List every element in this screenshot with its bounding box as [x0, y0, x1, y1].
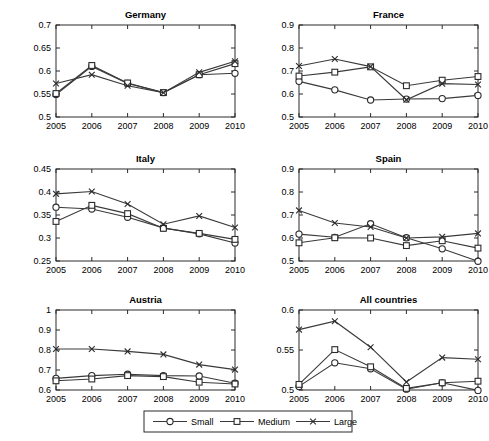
circle-marker [196, 373, 202, 379]
y-axis-tick-label: 0.8 [281, 187, 294, 197]
x-axis-tick-label: 2007 [118, 394, 138, 404]
series-medium [296, 64, 481, 89]
circle-marker [475, 258, 481, 264]
x-axis-tick-label: 2007 [361, 121, 381, 131]
square-marker [89, 63, 95, 69]
panel-title-germany: Germany [125, 9, 167, 20]
x-axis-tick-label: 2005 [289, 394, 309, 404]
series-large [296, 318, 481, 385]
x-axis-tick-label: 2008 [396, 121, 416, 131]
x-axis-tick-label: 2009 [432, 265, 452, 275]
square-marker [332, 235, 338, 241]
series-line-small [56, 66, 235, 94]
x-axis-tick-label: 2008 [396, 394, 416, 404]
x-axis-tick-label: 2006 [325, 394, 345, 404]
x-axis-tick-label: 2007 [118, 265, 138, 275]
panel-title-italy: Italy [136, 153, 156, 164]
square-marker [196, 379, 202, 385]
x-axis-tick-label: 2009 [189, 394, 209, 404]
panel-france: France0.50.60.70.80.92005200620072008200… [281, 9, 488, 131]
square-marker [475, 74, 481, 80]
x-axis-tick-label: 2010 [468, 265, 488, 275]
plot-area-frame [56, 25, 235, 117]
x-axis-tick-label: 2009 [189, 121, 209, 131]
legend-label-small: Small [191, 417, 214, 427]
square-marker [196, 231, 202, 237]
y-axis-tick-label: 0.65 [33, 43, 51, 53]
square-marker [296, 240, 302, 246]
square-marker [125, 373, 131, 379]
x-axis-tick-label: 2005 [46, 265, 66, 275]
square-marker [332, 69, 338, 75]
square-marker [439, 380, 445, 386]
circle-marker [475, 92, 481, 98]
x-axis-tick-label: 2008 [153, 265, 173, 275]
y-axis-tick-label: 0.6 [38, 66, 51, 76]
circle-marker [332, 87, 338, 93]
square-marker [53, 378, 59, 384]
series-line-medium [299, 238, 478, 248]
circle-marker [332, 360, 338, 366]
legend: SmallMediumLarge [144, 411, 357, 432]
circle-marker [232, 70, 238, 76]
y-axis-tick-label: 0.4 [38, 187, 51, 197]
y-axis-tick-label: 0.9 [38, 325, 51, 335]
y-axis-tick-label: 0.6 [281, 233, 294, 243]
square-marker [475, 245, 481, 251]
x-axis-tick-label: 2006 [82, 265, 102, 275]
series-line-small [299, 363, 478, 391]
series-line-large [299, 321, 478, 382]
y-axis-tick-label: 0.8 [38, 345, 51, 355]
square-marker [404, 386, 410, 392]
square-marker [368, 364, 374, 370]
square-marker [404, 83, 410, 89]
y-axis-tick-label: 0.55 [276, 345, 294, 355]
x-axis-tick-label: 2010 [468, 121, 488, 131]
square-marker [404, 243, 410, 249]
legend-label-large: Large [334, 417, 357, 427]
y-axis-tick-label: 0.7 [281, 66, 294, 76]
panel-austria: Austria0.60.70.80.9120052006200720082009… [38, 294, 245, 404]
panel-title-spain: Spain [376, 153, 402, 164]
series-line-large [56, 349, 235, 370]
x-axis-tick-label: 2010 [225, 121, 245, 131]
plot-area-frame [299, 169, 478, 261]
square-marker [232, 236, 238, 242]
series-medium [296, 235, 481, 251]
x-axis-tick-label: 2007 [361, 394, 381, 404]
square-marker [332, 347, 338, 353]
x-axis-tick-label: 2010 [225, 265, 245, 275]
y-axis-tick-label: 1 [46, 305, 51, 315]
x-marker [404, 379, 410, 385]
x-axis-tick-label: 2006 [325, 265, 345, 275]
panel-italy: Italy0.250.30.350.40.4520052006200720082… [33, 153, 245, 275]
x-marker [368, 344, 374, 350]
square-marker [296, 73, 302, 79]
square-marker [234, 419, 240, 425]
x-axis-tick-label: 2005 [289, 265, 309, 275]
y-axis-tick-label: 0.3 [38, 233, 51, 243]
y-axis-tick-label: 0.55 [33, 89, 51, 99]
multi-panel-line-chart-figure: Germany0.50.550.60.650.72005200620072008… [0, 0, 489, 441]
plot-area-frame [56, 169, 235, 261]
x-axis-tick-label: 2008 [153, 121, 173, 131]
x-marker [125, 201, 131, 207]
circle-marker [368, 221, 374, 227]
square-marker [53, 91, 59, 97]
square-marker [89, 376, 95, 382]
x-axis-tick-label: 2009 [432, 121, 452, 131]
panel-title-all-countries: All countries [360, 294, 418, 305]
series-line-small [56, 207, 235, 243]
y-axis-tick-label: 0.6 [281, 89, 294, 99]
series-large [53, 58, 238, 95]
x-axis-tick-label: 2007 [361, 265, 381, 275]
plot-area-frame [299, 25, 478, 117]
square-marker [161, 374, 167, 380]
series-large [53, 346, 238, 372]
x-axis-tick-label: 2005 [46, 121, 66, 131]
x-axis-tick-label: 2005 [289, 121, 309, 131]
panel-spain: Spain0.50.60.70.80.920052006200720082009… [281, 153, 488, 275]
y-axis-tick-label: 0.7 [281, 210, 294, 220]
x-axis-tick-label: 2006 [82, 121, 102, 131]
square-marker [296, 382, 302, 388]
